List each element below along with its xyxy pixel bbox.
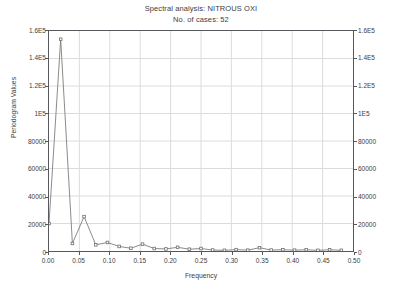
y-axis-tick-label-left: 60000 [28,165,46,172]
y-axis-tick-label-right: 40000 [358,193,376,200]
x-axis-tick-mark [293,252,294,255]
y-axis-tick-mark [45,113,48,114]
y-axis-tick-label-right: 60000 [358,165,376,172]
y-axis-tick-label-right: 1E5 [358,110,370,117]
x-axis-tick-label: 0.05 [64,257,94,264]
x-axis-tick-mark [323,252,324,255]
y-axis-tick-mark [45,169,48,170]
y-axis-tick-mark [354,86,357,87]
x-axis-tick-mark [109,252,110,255]
chart-subtitle: No. of cases: 52 [0,14,402,25]
y-axis-tick-label-left: 1.2E5 [29,82,46,89]
y-axis-tick-label-right: 1.4E5 [358,54,375,61]
x-axis-tick-mark [201,252,202,255]
x-axis-tick-label: 0.15 [125,257,155,264]
x-axis-tick-mark [170,252,171,255]
y-axis-tick-label-right: 1.2E5 [358,82,375,89]
y-axis-tick-mark [45,30,48,31]
y-axis-tick-label-left: 80000 [28,138,46,145]
x-axis-tick-label: 0.40 [278,257,308,264]
y-axis-tick-label-left: 1.6E5 [29,27,46,34]
y-axis-tick-label-right: 80000 [358,138,376,145]
y-axis-tick-label-right: 20000 [358,221,376,228]
x-axis-tick-label: 0.00 [33,257,63,264]
x-axis-tick-mark [232,252,233,255]
y-axis-tick-label-left: 1.4E5 [29,54,46,61]
y-axis-tick-mark [354,30,357,31]
x-axis-tick-label: 0.30 [217,257,247,264]
x-axis-tick-mark [79,252,80,255]
y-axis-tick-mark [354,113,357,114]
y-axis-tick-mark [45,141,48,142]
x-axis-tick-mark [140,252,141,255]
periodogram-series [49,31,353,251]
x-axis-title: Frequency [0,272,402,279]
chart-title-block: Spectral analysis: NITROUS OXI No. of ca… [0,3,402,25]
y-axis-tick-mark [45,224,48,225]
y-axis-tick-label-right: 0 [358,249,362,256]
y-axis-tick-mark [45,197,48,198]
x-axis-tick-mark [354,252,355,255]
x-axis-tick-label: 0.35 [247,257,277,264]
y-axis-tick-mark [354,224,357,225]
y-axis-tick-mark [354,169,357,170]
plot-area [48,30,354,252]
x-axis-tick-label: 0.25 [186,257,216,264]
x-axis-tick-mark [262,252,263,255]
y-axis-tick-mark [45,86,48,87]
y-axis-title: Periodogram Values [10,48,17,168]
spectral-analysis-chart: Spectral analysis: NITROUS OXI No. of ca… [0,0,402,288]
x-axis-tick-mark [48,252,49,255]
y-axis-tick-label-left: 40000 [28,193,46,200]
page-title: Spectral analysis: NITROUS OXI [0,3,402,14]
y-axis-tick-label-left: 20000 [28,221,46,228]
x-axis-tick-label: 0.20 [155,257,185,264]
y-axis-tick-mark [354,197,357,198]
y-axis-tick-label-right: 1.6E5 [358,27,375,34]
x-axis-tick-label: 0.50 [339,257,369,264]
y-axis-tick-mark [354,58,357,59]
x-axis-tick-label: 0.45 [308,257,338,264]
x-axis-tick-label: 0.10 [94,257,124,264]
y-axis-tick-mark [354,141,357,142]
y-axis-tick-mark [45,58,48,59]
